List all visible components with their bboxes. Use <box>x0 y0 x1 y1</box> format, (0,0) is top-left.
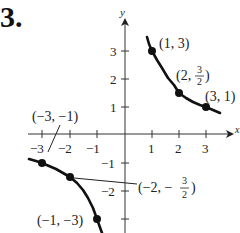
plot-area: x y −3 −2 −1 1 2 3 3 2 1 −1 −2 <box>0 0 240 233</box>
svg-text:): ) <box>205 68 210 84</box>
point-neg2-neg1.5 <box>66 173 74 181</box>
y-tick-label: −1 <box>101 156 115 171</box>
y-tick-label: 2 <box>110 72 117 87</box>
label-point-1-3: (1, 3) <box>159 36 190 52</box>
y-axis-label: y <box>119 6 125 18</box>
x-tick-label: −3 <box>30 141 44 156</box>
x-tick-label: −2 <box>58 141 72 156</box>
label-point-neg1-neg3: (−1, −3) <box>37 213 83 229</box>
point-neg3-neg1 <box>38 159 46 167</box>
y-tick-label: −2 <box>101 184 115 199</box>
svg-text:2: 2 <box>182 189 187 200</box>
label-point-neg3-neg1: (−3, −1) <box>32 109 78 125</box>
svg-text:3: 3 <box>197 64 202 75</box>
point-1-3 <box>148 47 156 55</box>
graph-figure: 3. x y −3 −2 −1 1 2 3 <box>0 0 240 233</box>
x-tick-label: 2 <box>175 141 182 156</box>
label-point-2-1.5: (2, 3 2 ) <box>176 64 210 87</box>
label-point-neg2-neg1.5: (−2, − 3 2 ) <box>138 175 196 200</box>
svg-text:3: 3 <box>182 175 187 186</box>
svg-text:(2,: (2, <box>176 68 191 84</box>
point-neg1-neg3 <box>93 215 101 223</box>
y-tick-label: 3 <box>110 44 117 59</box>
point-3-1 <box>202 103 210 111</box>
x-axis-label: x <box>234 124 240 135</box>
svg-text:2: 2 <box>197 76 202 87</box>
svg-text:(−2, −: (−2, − <box>138 180 173 196</box>
point-2-1.5 <box>175 89 183 97</box>
label-point-3-1: (3, 1) <box>205 89 236 105</box>
x-tick-label: 3 <box>202 141 209 156</box>
x-tick-label: 1 <box>148 141 155 156</box>
x-tick-label: −1 <box>86 141 100 156</box>
svg-text:): ) <box>191 180 196 196</box>
problem-number: 3. <box>0 0 23 34</box>
y-tick-label: 1 <box>110 100 117 115</box>
